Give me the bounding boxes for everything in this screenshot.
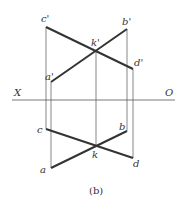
projection-diagram: X O c' b' k' d' a' c b k d a (b) [0, 0, 183, 205]
label-k: k [92, 149, 98, 160]
label-k-prime: k' [91, 37, 100, 48]
figure-caption: (b) [89, 185, 103, 196]
label-c-prime: c' [41, 13, 49, 24]
label-o: O [165, 87, 173, 98]
line-a-prime-b-prime [51, 29, 127, 82]
label-d-prime: d' [134, 57, 143, 68]
label-d: d [133, 158, 139, 169]
line-a-b [51, 131, 127, 168]
label-b-prime: b' [122, 16, 131, 27]
label-a-prime: a' [45, 71, 54, 82]
label-a: a [40, 164, 46, 175]
label-b: b [119, 121, 125, 132]
label-x: X [13, 87, 22, 98]
label-c: c [37, 124, 43, 135]
